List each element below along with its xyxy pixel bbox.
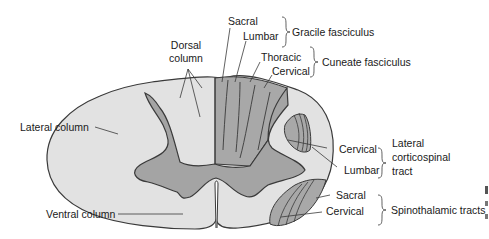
label-column: column [169,52,203,64]
label-lcs-3: tract [392,165,413,177]
label-lcs-1: Lateral [392,137,424,149]
label-ventral-column: Ventral column [46,208,116,220]
cropped-text-fragment [485,201,488,206]
spinal-cord-diagram: Dorsal column Sacral Lumbar Gracile fasc… [0,0,489,239]
label-cs-lumbar: Lumbar [344,164,380,176]
label-cuneate: Cuneate fasciculus [322,56,411,68]
label-sacral-top: Sacral [228,15,258,27]
label-lumbar-top: Lumbar [243,30,279,42]
anterior-median-fissure [215,181,218,228]
label-st-cervical: Cervical [326,205,364,217]
label-spinothalamic: Spinothalamic tracts [391,204,486,216]
cropped-text-fragment [485,214,488,219]
label-dorsal: Dorsal [171,39,201,51]
label-cervical-top: Cervical [272,65,310,77]
label-gracile: Gracile fasciculus [292,26,374,38]
label-cs-cervical: Cervical [339,143,377,155]
label-lcs-2: corticospinal [392,151,450,163]
label-thoracic: Thoracic [261,51,301,63]
label-st-sacral: Sacral [336,189,366,201]
label-lateral-column: Lateral column [20,121,89,133]
cropped-text-fragment [485,186,488,194]
